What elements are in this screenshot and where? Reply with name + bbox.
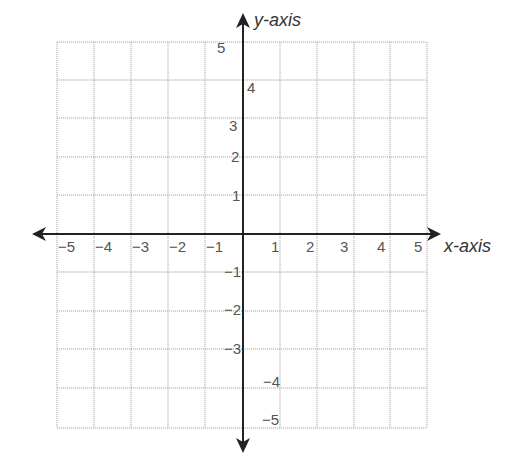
x-axis-label: x-axis bbox=[443, 236, 491, 256]
y-tick-label: −2 bbox=[224, 301, 241, 318]
x-tick-label: −1 bbox=[206, 238, 223, 255]
y-tick-label: −5 bbox=[262, 411, 279, 428]
x-tick-label: −5 bbox=[58, 238, 75, 255]
y-tick-label: 1 bbox=[232, 187, 240, 204]
x-tick-label: 2 bbox=[306, 238, 314, 255]
y-tick-label: 3 bbox=[229, 117, 237, 134]
y-axis-label: y-axis bbox=[252, 10, 301, 30]
x-tick-labels: −5 −4 −3 −2 −1 1 2 3 4 5 bbox=[58, 238, 422, 255]
x-tick-label: 4 bbox=[377, 238, 385, 255]
axes bbox=[38, 20, 436, 446]
y-tick-label: −4 bbox=[263, 373, 280, 390]
x-tick-label: 1 bbox=[271, 238, 279, 255]
y-tick-label: −1 bbox=[224, 263, 241, 280]
y-tick-label: 4 bbox=[247, 79, 255, 96]
y-tick-label: −3 bbox=[224, 340, 241, 357]
x-tick-label: −3 bbox=[132, 238, 149, 255]
x-tick-label: 5 bbox=[414, 238, 422, 255]
x-tick-label: −2 bbox=[169, 238, 186, 255]
coordinate-plane: y-axis x-axis −5 −4 −3 −2 −1 1 2 3 4 5 5… bbox=[0, 0, 524, 473]
x-tick-label: 3 bbox=[340, 238, 348, 255]
y-tick-label: 5 bbox=[217, 39, 225, 56]
x-tick-label: −4 bbox=[95, 238, 112, 255]
y-tick-label: 2 bbox=[231, 148, 239, 165]
